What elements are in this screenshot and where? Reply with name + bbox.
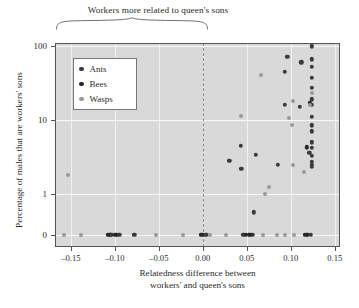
x-tick-label: –0.05 xyxy=(139,253,179,263)
data-point-ants xyxy=(310,129,314,133)
data-point-ants xyxy=(310,140,314,144)
data-point-ants xyxy=(132,233,136,237)
data-point-wasps xyxy=(275,233,279,237)
data-point-wasps xyxy=(308,103,312,107)
data-point-wasps xyxy=(62,233,66,237)
gridline-horizontal xyxy=(55,120,340,121)
data-point-wasps xyxy=(287,116,291,120)
gridline-vertical xyxy=(71,43,72,247)
legend-item-wasps[interactable]: Wasps xyxy=(79,92,113,106)
x-axis-title-line2: workers' and queen's sons xyxy=(55,280,340,292)
x-tick xyxy=(247,247,248,251)
data-point-wasps xyxy=(261,233,265,237)
data-point-ants xyxy=(310,65,314,69)
legend-item-bees[interactable]: Bees xyxy=(79,77,107,91)
data-point-ants xyxy=(282,103,286,107)
y-tick xyxy=(51,120,55,121)
data-point-wasps xyxy=(310,91,314,95)
axis-frame-right xyxy=(339,43,340,247)
x-tick xyxy=(291,247,292,251)
axis-frame-left xyxy=(55,43,56,247)
x-tick xyxy=(159,247,160,251)
x-tick-label: 0.00 xyxy=(183,253,223,263)
data-point-ants xyxy=(227,159,231,163)
data-point-ants xyxy=(310,164,314,168)
x-tick-label: 0.05 xyxy=(227,253,267,263)
legend-marker-ants xyxy=(79,67,84,72)
data-point-ants xyxy=(238,143,242,147)
y-tick xyxy=(51,235,55,236)
data-point-wasps xyxy=(66,173,70,177)
y-tick xyxy=(51,194,55,195)
data-point-wasps xyxy=(290,123,294,127)
y-axis-title: Percentage of males that are workers' so… xyxy=(14,45,24,255)
brace-annotation xyxy=(55,17,209,30)
x-axis-title-line1: Relatedness difference between xyxy=(55,268,340,280)
data-point-wasps xyxy=(292,233,296,237)
data-point-wasps xyxy=(224,233,228,237)
data-point-ants xyxy=(117,233,121,237)
legend: Ants Bees Wasps xyxy=(73,58,137,110)
data-point-wasps xyxy=(208,233,212,237)
x-tick xyxy=(335,247,336,251)
chart-annotation-title: Workers more related to queen's sons xyxy=(28,5,288,15)
reference-line-zero xyxy=(203,43,204,247)
data-point-ants xyxy=(282,69,286,73)
data-point-wasps xyxy=(283,233,287,237)
data-point-wasps xyxy=(154,233,158,237)
x-axis-title: Relatedness difference between workers' … xyxy=(55,268,340,291)
figure: Workers more related to queen's sons Ant… xyxy=(0,0,359,308)
gridline-vertical xyxy=(335,43,336,247)
data-point-ants xyxy=(310,146,314,150)
data-point-ants xyxy=(309,233,313,237)
gridline-horizontal xyxy=(55,235,340,236)
data-point-ants xyxy=(310,76,314,80)
data-point-bees xyxy=(305,233,309,237)
legend-label-ants: Ants xyxy=(90,64,107,74)
legend-label-wasps: Wasps xyxy=(90,94,113,104)
data-point-wasps xyxy=(259,73,263,77)
gridline-vertical xyxy=(291,43,292,247)
gridline-horizontal xyxy=(55,46,340,47)
legend-marker-wasps xyxy=(79,97,84,102)
data-point-wasps xyxy=(291,99,295,103)
data-point-wasps xyxy=(239,114,243,118)
x-tick xyxy=(71,247,72,251)
data-point-ants xyxy=(285,54,289,58)
legend-item-ants[interactable]: Ants xyxy=(79,62,107,76)
data-point-ants xyxy=(310,123,314,127)
data-point-wasps xyxy=(291,163,295,167)
data-point-ants xyxy=(299,60,303,64)
axis-frame-top xyxy=(55,43,340,44)
data-point-ants xyxy=(253,152,257,156)
y-tick xyxy=(51,46,55,47)
legend-label-bees: Bees xyxy=(90,79,108,89)
gridline-vertical xyxy=(159,43,160,247)
data-point-ants xyxy=(297,105,301,109)
x-tick-label: –0.10 xyxy=(95,253,135,263)
axis-frame-bottom xyxy=(55,246,340,247)
data-point-bees xyxy=(304,145,308,149)
data-point-wasps xyxy=(263,192,267,196)
gridline-horizontal xyxy=(55,194,340,195)
data-point-ants xyxy=(310,44,314,48)
data-point-ants xyxy=(310,115,314,119)
data-point-ants xyxy=(239,166,243,170)
data-point-ants xyxy=(310,86,314,90)
data-point-ants xyxy=(252,210,256,214)
x-tick xyxy=(115,247,116,251)
x-tick-label: 0.10 xyxy=(271,253,311,263)
data-point-wasps xyxy=(181,233,185,237)
data-point-ants xyxy=(310,57,314,61)
x-tick-label: 0.15 xyxy=(315,253,355,263)
data-point-ants xyxy=(275,162,279,166)
data-point-wasps xyxy=(267,185,271,189)
data-point-wasps xyxy=(302,170,306,174)
legend-marker-bees xyxy=(79,82,84,87)
gridline-vertical xyxy=(247,43,248,247)
x-tick-label: –0.15 xyxy=(51,253,91,263)
x-tick xyxy=(203,247,204,251)
data-point-wasps xyxy=(79,233,83,237)
